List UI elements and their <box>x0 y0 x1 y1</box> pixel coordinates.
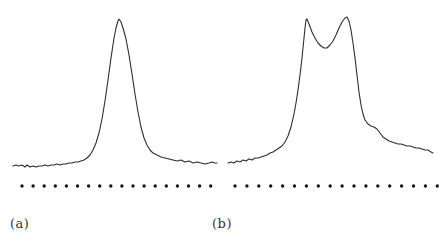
sampling-dot <box>305 184 308 187</box>
sampling-dot <box>198 184 201 187</box>
curve-b <box>228 17 433 163</box>
sampling-dot <box>187 184 190 187</box>
sampling-dot <box>176 184 179 187</box>
sampling-dot <box>43 184 46 187</box>
sampling-dot <box>293 184 296 187</box>
sampling-dot <box>424 184 427 187</box>
sampling-dot <box>340 184 343 187</box>
sampling-dot <box>329 184 332 187</box>
sampling-dot <box>257 184 260 187</box>
panel-label-b: (b) <box>212 217 232 230</box>
sampling-dot <box>165 184 168 187</box>
sampling-dot <box>209 184 212 187</box>
sampling-dot <box>109 184 112 187</box>
sampling-dot <box>20 184 23 187</box>
sampling-dot <box>376 184 379 187</box>
sampling-dot <box>131 184 134 187</box>
sampling-dot <box>65 184 68 187</box>
sampling-dot <box>364 184 367 187</box>
sampling-dot <box>31 184 34 187</box>
sampling-dot <box>400 184 403 187</box>
sampling-dot <box>76 184 79 187</box>
curve-a <box>13 19 217 167</box>
sampling-dot <box>120 184 123 187</box>
sampling-dot <box>317 184 320 187</box>
sampling-dot <box>412 184 415 187</box>
figure-canvas <box>0 0 439 247</box>
sampling-dot <box>54 184 57 187</box>
dot-row-a <box>20 184 212 187</box>
sampling-dot <box>98 184 101 187</box>
sampling-dot <box>233 184 236 187</box>
sampling-dot <box>87 184 90 187</box>
sampling-dot <box>154 184 157 187</box>
sampling-dot <box>352 184 355 187</box>
sampling-dot <box>281 184 284 187</box>
dot-row-b <box>233 184 439 187</box>
two-panel-line-profile-figure: (a) (b) <box>0 0 439 247</box>
panel-label-a: (a) <box>10 217 29 230</box>
sampling-dot <box>245 184 248 187</box>
sampling-dot <box>388 184 391 187</box>
sampling-dot <box>142 184 145 187</box>
sampling-dot <box>269 184 272 187</box>
sampling-dot <box>436 184 439 187</box>
